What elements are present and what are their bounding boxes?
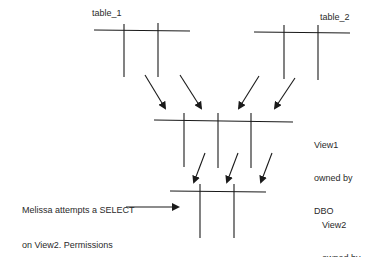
arrows-tables-to-view1: [145, 75, 295, 108]
annotation-line: Melissa attempts a SELECT: [22, 205, 135, 217]
view2-label-line: View2: [322, 220, 361, 231]
view1-label-line: owned by: [314, 173, 353, 184]
table-2-label: table_2: [320, 12, 350, 23]
view1-shape: [154, 113, 293, 168]
view2-shape: [170, 184, 266, 238]
table-1-shape: [94, 23, 190, 77]
annotation-line: on View2. Permissions: [22, 240, 135, 252]
view2-label: View2 owned by DBO: [322, 198, 361, 257]
view1-label-line: View1: [314, 140, 353, 151]
arrows-view1-to-view2: [194, 153, 272, 182]
table-2-shape: [254, 25, 350, 80]
view2-label-line: owned by: [322, 253, 361, 257]
annotation-text: Melissa attempts a SELECT on View2. Perm…: [22, 182, 135, 257]
table-1-label: table_1: [92, 8, 122, 19]
